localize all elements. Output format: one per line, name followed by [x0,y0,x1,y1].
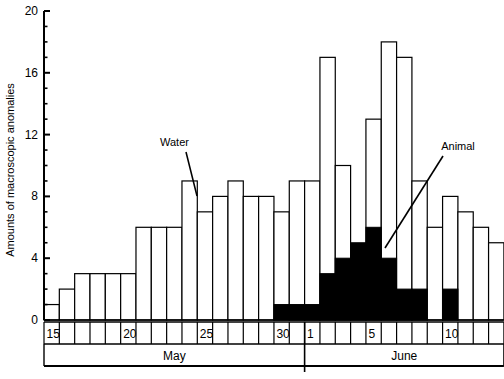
y-tick-label-4: 4 [31,251,38,265]
month-label-may: May [163,349,186,363]
macroscopic-anomalies-bar-chart: 048121620152025301510MayJuneWaterAnimalA… [0,0,504,379]
bar-water-22 [151,227,166,320]
day-label-june-10: 10 [445,327,459,341]
bar-animal-30 [274,305,289,320]
bar-water-28 [243,196,258,320]
bar-water-25 [197,212,212,320]
y-tick-label-16: 16 [25,66,39,80]
bar-animal-4 [351,243,366,320]
bar-water-19 [105,274,120,320]
day-label-may-25: 25 [200,327,214,341]
chart-figure: 048121620152025301510MayJuneWaterAnimalA… [0,0,504,379]
bar-water-26 [213,196,228,320]
day-label-june-5: 5 [368,327,375,341]
bar-water-20 [121,274,136,320]
day-label-may-20: 20 [123,327,137,341]
bar-water-17 [75,274,90,320]
annotation-label-animal: Animal [441,140,475,152]
bar-water-9 [427,227,442,320]
bar-water-11 [458,212,473,320]
bar-water-23 [167,227,182,320]
bar-animal-3 [335,258,350,320]
bar-water-21 [136,227,151,320]
bar-water-1 [305,181,320,320]
bar-water-15 [44,305,59,320]
bar-water-29 [259,196,274,320]
bar-water-13 [489,243,504,320]
day-label-may-15: 15 [47,327,61,341]
y-tick-label-12: 12 [25,128,39,142]
bar-water-24 [182,181,197,320]
bar-water-7 [397,57,412,320]
bar-water-18 [90,274,105,320]
bar-animal-31 [289,305,304,320]
bar-animal-5 [366,227,381,320]
bar-water-12 [473,227,488,320]
bar-animal-1 [305,305,320,320]
day-label-may-30: 30 [276,327,290,341]
bar-animal-7 [397,289,412,320]
y-axis-title: Amounts of macroscopic anomalies [4,83,16,257]
bar-water-30 [274,212,289,320]
y-tick-label-8: 8 [31,189,38,203]
bar-animal-2 [320,274,335,320]
bar-water-31 [289,181,304,320]
bar-animal-10 [443,289,458,320]
bar-animal-6 [381,258,396,320]
annotation-label-water: Water [160,136,189,148]
day-label-june-1: 1 [307,327,314,341]
y-tick-label-0: 0 [31,313,38,327]
bar-water-16 [59,289,74,320]
month-label-june: June [391,349,417,363]
bar-animal-8 [412,289,427,320]
y-tick-label-20: 20 [25,4,39,18]
bar-water-27 [228,181,243,320]
